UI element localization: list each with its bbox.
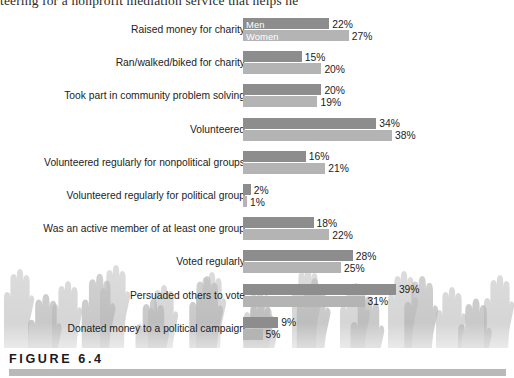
bar-value-label: 25% (344, 262, 365, 273)
page-body-text-fragment: teering for a nonprofit mediation servic… (0, 0, 514, 9)
bar-value-label: 22% (332, 229, 353, 240)
bar-men: 16% (243, 151, 306, 162)
bar-men: 18% (243, 217, 314, 228)
category-label: Volunteered (190, 124, 245, 135)
bar-value-label: 34% (379, 118, 400, 129)
bar-value-label: 16% (309, 151, 330, 162)
bar-men: 28% (243, 250, 353, 261)
category-label: Persuaded others to vote (130, 290, 245, 301)
bar-women: 22% (243, 229, 329, 240)
bar-men: 34% (243, 118, 376, 129)
bar-value-label: 31% (368, 296, 389, 307)
category-label: Volunteered regularly for political grou… (66, 190, 245, 201)
bar-value-label: 39% (399, 284, 420, 295)
bar-value-label: 22% (332, 18, 353, 29)
bar-value-label: 38% (395, 130, 416, 141)
category-label: Took part in community problem solving (64, 90, 245, 101)
bar-value-label: 18% (317, 217, 338, 228)
bar-women: 5% (243, 329, 263, 340)
bar-value-label: 5% (266, 329, 281, 340)
bar-value-label: 20% (324, 84, 345, 95)
bar-men: 22%Men (243, 18, 329, 29)
bar-women: 31% (243, 296, 365, 307)
category-label: Donated money to a political campaign (68, 323, 245, 334)
bar-value-label: 27% (352, 30, 373, 41)
legend-label-men: Men (246, 18, 265, 29)
figure-page: teering for a nonprofit mediation servic… (0, 0, 514, 378)
bar-women: 1% (243, 196, 247, 207)
category-label: Voted regularly (176, 256, 245, 267)
bar-value-label: 19% (320, 96, 341, 107)
category-label: Was an active member of at least one gro… (43, 223, 245, 234)
bar-value-label: 9% (281, 317, 296, 328)
bar-women: 21% (243, 163, 325, 174)
bar-value-label: 2% (254, 184, 269, 195)
bar-men: 2% (243, 184, 251, 195)
grouped-bar-chart: Raised money for charity22%Men27%WomenRa… (0, 18, 514, 348)
legend-label-women: Women (246, 30, 279, 41)
bar-value-label: 20% (324, 63, 345, 74)
category-label: Raised money for charity (131, 24, 245, 35)
bar-value-label: 1% (250, 196, 265, 207)
category-label: Volunteered regularly for nonpolitical g… (44, 157, 245, 168)
bar-men: 9% (243, 317, 278, 328)
bar-women: 20% (243, 63, 321, 74)
category-label: Ran/walked/biked for charity (116, 57, 245, 68)
bar-value-label: 28% (356, 250, 377, 261)
bar-women: 19% (243, 96, 317, 107)
bar-women: 27%Women (243, 30, 349, 41)
bar-men: 39% (243, 284, 396, 295)
bar-women: 38% (243, 130, 392, 141)
bar-men: 15% (243, 51, 302, 62)
bar-value-label: 21% (328, 163, 349, 174)
bar-men: 20% (243, 84, 321, 95)
bar-value-label: 15% (305, 51, 326, 62)
figure-caption-label: FIGURE 6.4 (9, 352, 104, 366)
bar-women: 25% (243, 262, 341, 273)
figure-caption-rule (9, 369, 506, 376)
